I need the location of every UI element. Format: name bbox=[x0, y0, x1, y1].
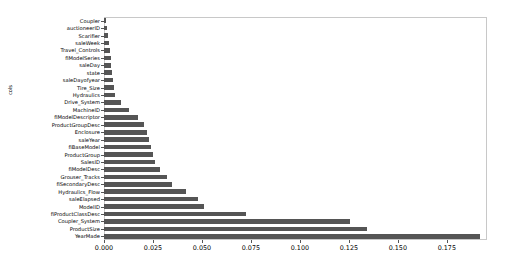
y-axis-tick-mark bbox=[101, 102, 105, 103]
matplotlib-figure: cols CouplerauctioneerIDScarifiersaleWee… bbox=[0, 0, 509, 268]
x-axis-tick-label: 0.125 bbox=[329, 244, 369, 252]
y-axis-tick-mark bbox=[101, 125, 105, 126]
bar bbox=[104, 145, 151, 150]
x-axis-tick-label: 0.000 bbox=[84, 244, 124, 252]
y-axis-tick-label: Hydraulics bbox=[14, 92, 100, 98]
y-axis-tick-label: Travel_Controls bbox=[14, 47, 100, 53]
y-axis-tick-mark bbox=[101, 73, 105, 74]
y-axis-tick-mark bbox=[101, 95, 105, 96]
y-axis-tick-mark bbox=[101, 147, 105, 148]
y-axis-tick-mark bbox=[101, 221, 105, 222]
bar bbox=[104, 56, 111, 61]
bar bbox=[104, 212, 246, 217]
y-axis-tick-label: ModelID bbox=[14, 204, 100, 210]
bar-series bbox=[104, 17, 487, 240]
y-axis-tick-labels: CouplerauctioneerIDScarifiersaleWeekTrav… bbox=[14, 17, 100, 240]
bar bbox=[104, 108, 129, 113]
bar bbox=[104, 63, 111, 68]
bar bbox=[104, 189, 186, 194]
bar bbox=[104, 175, 167, 180]
x-axis-tick-label: 0.100 bbox=[280, 244, 320, 252]
bar bbox=[104, 70, 112, 75]
y-axis-tick-mark bbox=[101, 207, 105, 208]
y-axis-tick-mark bbox=[101, 236, 105, 237]
y-axis-tick-label: SalesID bbox=[14, 159, 100, 165]
y-axis-tick-label: fiProductClassDesc bbox=[14, 211, 100, 217]
y-axis-tick-mark bbox=[101, 140, 105, 141]
y-axis-tick-mark bbox=[101, 132, 105, 133]
y-axis-tick-mark bbox=[101, 21, 105, 22]
y-axis-tick-label: Grouser_Tracks bbox=[14, 174, 100, 180]
x-axis-tick-label: 0.150 bbox=[378, 244, 418, 252]
bar bbox=[104, 18, 106, 23]
y-axis-tick-label: saleDayofyear bbox=[14, 77, 100, 83]
y-axis-tick-label: ProductGroupDesc bbox=[14, 122, 100, 128]
y-axis-tick-mark bbox=[101, 229, 105, 230]
x-axis-tick-mark bbox=[349, 240, 350, 243]
bar bbox=[104, 227, 367, 232]
y-axis-tick-label: Scarifier bbox=[14, 33, 100, 39]
y-axis-tick-mark bbox=[101, 110, 105, 111]
y-axis-tick-label: Coupler_System bbox=[14, 218, 100, 224]
bar bbox=[104, 160, 155, 165]
y-axis-tick-mark bbox=[101, 88, 105, 89]
y-axis-tick-mark bbox=[101, 155, 105, 156]
bar bbox=[104, 152, 153, 157]
y-axis-tick-mark bbox=[101, 169, 105, 170]
y-axis-tick-label: Hydraulics_Flow bbox=[14, 189, 100, 195]
bar bbox=[104, 41, 109, 46]
x-axis-tick-mark bbox=[251, 240, 252, 243]
bar bbox=[104, 93, 115, 98]
y-axis-tick-label: Coupler bbox=[14, 18, 100, 24]
y-axis-tick-mark bbox=[101, 43, 105, 44]
y-axis-tick-label: saleDay bbox=[14, 62, 100, 68]
bar bbox=[104, 167, 160, 172]
bar bbox=[104, 100, 121, 105]
x-axis-tick-label: 0.025 bbox=[133, 244, 173, 252]
y-axis-tick-label: saleElapsed bbox=[14, 196, 100, 202]
x-axis-tick-label: 0.175 bbox=[427, 244, 467, 252]
y-axis-tick-label: fiBaseModel bbox=[14, 144, 100, 150]
y-axis-tick-label: saleWeek bbox=[14, 40, 100, 46]
bar bbox=[104, 130, 147, 135]
y-axis-tick-mark bbox=[101, 50, 105, 51]
y-axis-tick-label: fiModelDesc bbox=[14, 166, 100, 172]
y-axis-tick-mark bbox=[101, 214, 105, 215]
bar bbox=[104, 26, 107, 31]
x-axis-tick-mark bbox=[398, 240, 399, 243]
y-axis-tick-label: MachineID bbox=[14, 107, 100, 113]
y-axis-tick-mark bbox=[101, 58, 105, 59]
bar bbox=[104, 78, 113, 83]
y-axis-tick-label: Enclosure bbox=[14, 129, 100, 135]
y-axis-tick-mark bbox=[101, 162, 105, 163]
bar bbox=[104, 115, 138, 120]
y-axis-tick-mark bbox=[101, 28, 105, 29]
y-axis-tick-label: fiModelSeries bbox=[14, 55, 100, 61]
y-axis-tick-label: Drive_System bbox=[14, 99, 100, 105]
y-axis-tick-label: YearMade bbox=[14, 233, 100, 239]
y-axis-tick-mark bbox=[101, 199, 105, 200]
y-axis-tick-mark bbox=[101, 192, 105, 193]
y-axis-tick-mark bbox=[101, 65, 105, 66]
y-axis-tick-label: fiModelDescriptor bbox=[14, 114, 100, 120]
y-axis-tick-label: auctioneerID bbox=[14, 25, 100, 31]
bar bbox=[104, 234, 480, 239]
y-axis-tick-mark bbox=[101, 36, 105, 37]
y-axis-tick-label: ProductSize bbox=[14, 226, 100, 232]
bar bbox=[104, 219, 350, 224]
bar bbox=[104, 197, 198, 202]
bar bbox=[104, 137, 149, 142]
y-axis-tick-label: Tire_Size bbox=[14, 85, 100, 91]
x-axis-tick-mark bbox=[447, 240, 448, 243]
bar bbox=[104, 204, 204, 209]
bar bbox=[104, 85, 114, 90]
y-axis-tick-label: state bbox=[14, 70, 100, 76]
bar bbox=[104, 122, 144, 127]
x-axis-tick-mark bbox=[153, 240, 154, 243]
y-axis-tick-mark bbox=[101, 184, 105, 185]
bar bbox=[104, 48, 110, 53]
bar bbox=[104, 33, 108, 38]
x-axis-tick-mark bbox=[104, 240, 105, 243]
y-axis-tick-label: ProductGroup bbox=[14, 152, 100, 158]
x-axis-tick-label: 0.075 bbox=[231, 244, 271, 252]
